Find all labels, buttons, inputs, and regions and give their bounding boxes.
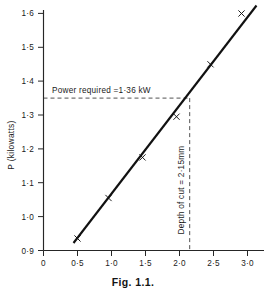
x-tick-label-2: 1·0 bbox=[105, 259, 118, 268]
x-tick-label-0: 0 bbox=[41, 259, 46, 268]
x-tick-label-5: 2·5 bbox=[207, 259, 220, 268]
y-tick-label-0: 0·9 bbox=[22, 247, 35, 256]
y-tick-label-2: 1·1 bbox=[22, 179, 35, 188]
depth-of-cut-annotation: Depth of cut = 2·15mm bbox=[177, 146, 186, 235]
x-tick-label-4: 2·0 bbox=[173, 259, 186, 268]
power-vs-depth-chart: 0·9 1·0 1·1 1·2 1·3 1·4 1·5 1·6 0 0·5 1·… bbox=[0, 0, 266, 276]
chart-background bbox=[0, 0, 266, 276]
y-axis-title: P (kilowatts) bbox=[6, 120, 16, 169]
y-tick-label-1: 1·0 bbox=[22, 213, 35, 222]
figure-caption: Fig. 1.1. bbox=[0, 276, 266, 288]
y-tick-label-4: 1·3 bbox=[22, 111, 35, 120]
y-tick-label-7: 1·6 bbox=[22, 9, 35, 18]
y-tick-label-3: 1·2 bbox=[22, 145, 35, 154]
x-tick-label-6: 3·0 bbox=[241, 259, 254, 268]
figure-1-1: 0·9 1·0 1·1 1·2 1·3 1·4 1·5 1·6 0 0·5 1·… bbox=[0, 0, 266, 295]
y-tick-label-5: 1·4 bbox=[22, 77, 35, 86]
power-required-annotation: Power required =1·36 kW bbox=[52, 86, 151, 95]
x-tick-label-1: 0·5 bbox=[71, 259, 84, 268]
y-tick-label-6: 1·5 bbox=[22, 43, 35, 52]
x-tick-label-3: 1·5 bbox=[139, 259, 152, 268]
